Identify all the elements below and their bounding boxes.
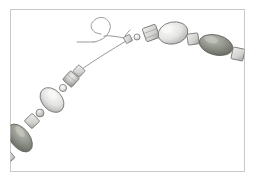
beading-illustration — [0, 0, 262, 182]
seed-bead — [59, 84, 66, 91]
cube-bead — [187, 33, 199, 45]
illustration-root — [0, 0, 262, 182]
seed-bead — [134, 34, 140, 40]
cube-bead-edge — [231, 47, 245, 61]
seed-bead — [36, 109, 44, 117]
